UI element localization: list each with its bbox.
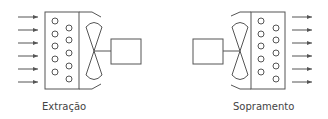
blowing-unit [193, 12, 312, 89]
extraction-unit [18, 12, 141, 89]
motor-box [193, 39, 223, 64]
extraction-label: Extração [42, 101, 86, 112]
motor-box [111, 39, 141, 64]
coil-tubes-icon [258, 18, 279, 82]
blowing-label: Sopramento [233, 101, 294, 112]
outflow-arrows-icon [292, 17, 312, 82]
coil-block [251, 12, 285, 89]
coil-tubes-icon [52, 18, 72, 82]
inflow-arrows-icon [18, 17, 38, 82]
coil-block [45, 12, 79, 89]
